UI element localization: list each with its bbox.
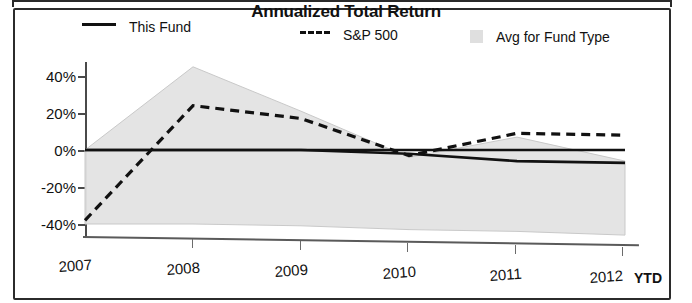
chart-page: Annualized Total Return This Fund S&P 50… (0, 0, 692, 303)
chart-plot-area (0, 0, 692, 303)
